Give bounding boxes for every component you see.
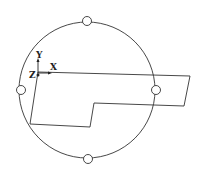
axis-label-y: Y [35,50,43,60]
coordinate-axes: Y X Z [29,50,57,80]
diagram-canvas: Y X Z [0,0,205,176]
axis-label-z: Z [29,70,36,80]
main-circle [19,22,155,158]
marker-right [152,86,161,95]
marker-top [83,17,92,26]
part-outline [30,72,190,127]
marker-bottom [84,155,93,164]
axis-label-x: X [50,62,57,72]
marker-left [17,86,26,95]
